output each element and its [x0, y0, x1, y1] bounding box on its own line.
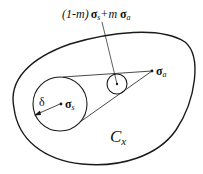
combination-label: (1-m)σs+m σa: [62, 7, 131, 22]
label-leader-line: [102, 22, 117, 84]
convex-set-diagram: (1-m)σs+m σa σa σs δ Cx: [0, 0, 203, 174]
sigma-a-label: σa: [156, 64, 167, 79]
point-combination: [116, 83, 118, 85]
point-sigma-a: [151, 70, 154, 73]
radius-label: δ: [39, 95, 45, 109]
region-label: Cx: [110, 127, 126, 147]
tangent-line-upper: [63, 71, 152, 77]
point-sigma-s: [60, 103, 63, 106]
sigma-s-label: σs: [65, 97, 75, 112]
